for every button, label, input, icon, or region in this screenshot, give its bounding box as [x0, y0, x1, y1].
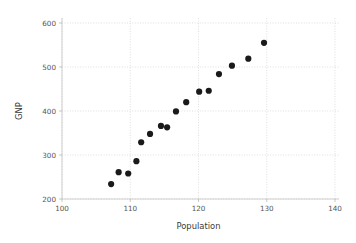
gridlines-group [62, 18, 339, 199]
data-point [261, 40, 267, 46]
y-axis-title: GNP [14, 102, 24, 120]
x-axis-tick-labels: 100110120130140 [55, 204, 342, 213]
data-point [138, 139, 144, 145]
x-axis-title: Population [176, 221, 220, 231]
data-point [158, 123, 164, 129]
plot-canvas: 100110120130140 200300400500600 Populati… [0, 0, 356, 243]
data-point [164, 124, 170, 130]
data-point [116, 169, 122, 175]
x-tick-label: 140 [328, 204, 342, 213]
data-point [147, 131, 153, 137]
x-tick-label: 110 [123, 204, 137, 213]
y-axis-tick-labels: 200300400500600 [42, 19, 56, 204]
axis-spines-group [62, 18, 339, 199]
data-point [245, 56, 251, 62]
y-tick-label: 200 [42, 195, 56, 204]
data-point [216, 71, 222, 77]
data-point [173, 108, 179, 114]
y-tick-label: 500 [42, 63, 56, 72]
data-point [196, 89, 202, 95]
data-point [206, 88, 212, 94]
data-point [183, 99, 189, 105]
data-point [133, 158, 139, 164]
x-tick-label: 100 [55, 204, 69, 213]
y-tick-label: 400 [42, 107, 56, 116]
data-points-group [108, 40, 267, 187]
scatter-chart-figure: 100110120130140 200300400500600 Populati… [0, 0, 356, 243]
y-tick-label: 600 [42, 19, 56, 28]
data-point [108, 181, 114, 187]
tick-marks-group [59, 23, 335, 202]
data-point [229, 63, 235, 69]
x-tick-label: 130 [260, 204, 274, 213]
data-point [125, 170, 131, 176]
y-tick-label: 300 [42, 151, 56, 160]
x-tick-label: 120 [192, 204, 206, 213]
